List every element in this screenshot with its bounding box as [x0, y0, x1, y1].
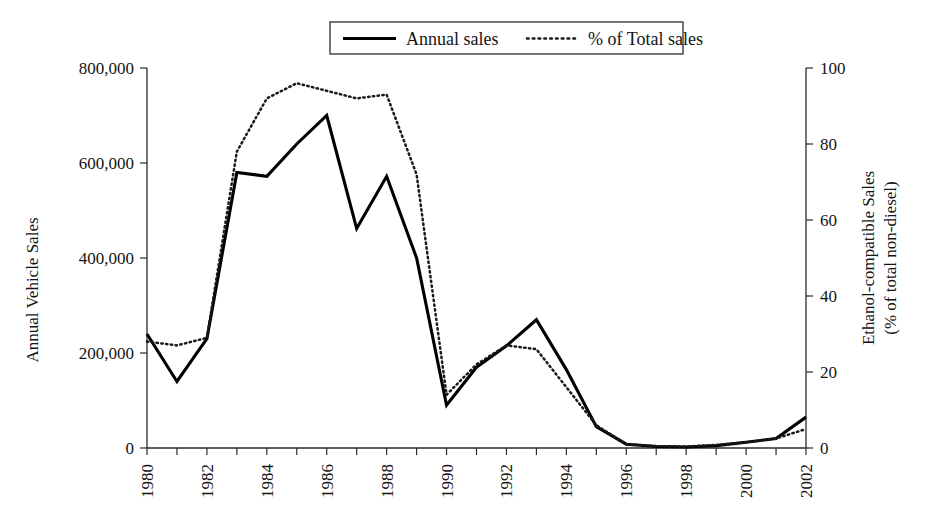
- x-axis-tick-label: 2000: [737, 464, 756, 498]
- y-axis-right-tick-label: 100: [820, 59, 846, 78]
- y-axis-left-tick-label: 800,000: [79, 59, 134, 78]
- legend-label-percent-total-sales: % of Total sales: [588, 29, 703, 49]
- y-axis-left-tick-label: 600,000: [79, 154, 134, 173]
- x-axis-tick-label: 1996: [617, 464, 636, 498]
- legend: Annual sales % of Total sales: [330, 22, 703, 54]
- y-axis-left-tick-label: 400,000: [79, 249, 134, 268]
- y-axis-right-tick-label: 60: [820, 211, 837, 230]
- y-axis-right-tick-label: 40: [820, 287, 837, 306]
- x-axis-tick-label: 1982: [198, 464, 217, 498]
- y-axis-right-tick-label: 20: [820, 363, 837, 382]
- x-axis-tick-label: 1988: [378, 464, 397, 498]
- y-axis-right-ticks: 020406080100: [806, 59, 846, 458]
- x-axis-tick-label: 1980: [138, 464, 157, 498]
- y-axis-left-tick-label: 0: [126, 439, 135, 458]
- x-axis-tick-label: 1992: [497, 464, 516, 498]
- x-axis-tick-label: 1986: [318, 464, 337, 498]
- x-axis-tick-label: 2002: [797, 464, 816, 498]
- y-axis-right-tick-label: 0: [820, 439, 829, 458]
- series-line-annual-sales: [147, 116, 806, 448]
- x-axis-ticks: 1980198219841986198819901992199419961998…: [138, 448, 816, 498]
- x-axis-tick-label: 1998: [677, 464, 696, 498]
- y-axis-right-tick-label: 80: [820, 135, 837, 154]
- y-axis-left-title: Annual Vehicle Sales: [23, 217, 42, 362]
- y-axis-right-title-line2: (% of total non-diesel): [881, 181, 900, 334]
- x-axis-tick-label: 1990: [438, 464, 457, 498]
- x-axis-tick-label: 1984: [258, 464, 277, 499]
- y-axis-left-tick-label: 200,000: [79, 344, 134, 363]
- chart-figure: 0200,000400,000600,000800,000 0204060801…: [0, 0, 933, 513]
- y-axis-left-ticks: 0200,000400,000600,000800,000: [79, 59, 147, 458]
- legend-label-annual-sales: Annual sales: [406, 29, 498, 49]
- dual-axis-line-chart: 0200,000400,000600,000800,000 0204060801…: [0, 0, 933, 513]
- x-axis-tick-label: 1994: [557, 464, 576, 499]
- series-line-percent-total-sales: [147, 83, 806, 446]
- y-axis-right-title-line1: Ethanol-compatible Sales: [859, 171, 878, 345]
